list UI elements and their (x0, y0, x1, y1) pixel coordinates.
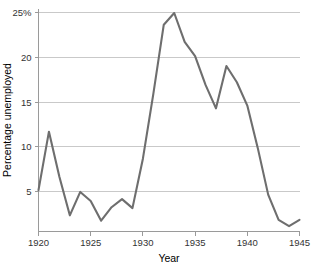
x-tick-label-1930: 1930 (132, 237, 153, 248)
gridlines-group (39, 12, 300, 192)
y-axis-title: Percentage unemployed (1, 63, 13, 177)
x-tick-label-1935: 1935 (185, 237, 206, 248)
x-tick-label-1925: 1925 (80, 237, 101, 248)
x-tick-label-1945: 1945 (289, 237, 310, 248)
y-tick-label-20: 20 (21, 52, 32, 63)
y-tick-group: 510152025% (12, 7, 38, 198)
x-tick-label-1940: 1940 (237, 237, 258, 248)
y-tick-label-15: 15 (21, 97, 32, 108)
y-tick-label-5: 5 (26, 186, 31, 197)
x-tick-label-1920: 1920 (28, 237, 49, 248)
chart-canvas: 510152025% 192019251930193519401945 Year… (0, 0, 315, 268)
data-series-group (39, 13, 300, 226)
unemployment-line-chart: 510152025% 192019251930193519401945 Year… (0, 0, 315, 268)
x-axis-title: Year (158, 252, 180, 264)
y-tick-label-25: 25% (12, 7, 32, 18)
y-tick-label-10: 10 (21, 141, 32, 152)
x-tick-group: 192019251930193519401945 (28, 232, 310, 248)
data-line-1 (39, 13, 300, 226)
